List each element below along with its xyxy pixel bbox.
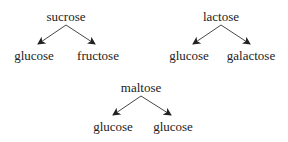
- lactose-arrows: [193, 25, 250, 44]
- lactose-child-galactose: galactose: [227, 49, 275, 63]
- maltose-child-glucose-2: glucose: [153, 120, 193, 134]
- lactose-label: lactose: [203, 10, 239, 24]
- maltose-child-glucose-1: glucose: [93, 120, 133, 134]
- sucrose-label: sucrose: [47, 10, 86, 24]
- maltose-label: maltose: [121, 81, 161, 95]
- sucrose-child-fructose: fructose: [77, 49, 119, 63]
- sucrose-child-glucose: glucose: [14, 49, 54, 63]
- lactose-child-glucose: glucose: [169, 49, 209, 63]
- maltose-arrows: [113, 96, 171, 115]
- arrows-layer: [0, 0, 288, 142]
- sucrose-arrows: [38, 25, 95, 44]
